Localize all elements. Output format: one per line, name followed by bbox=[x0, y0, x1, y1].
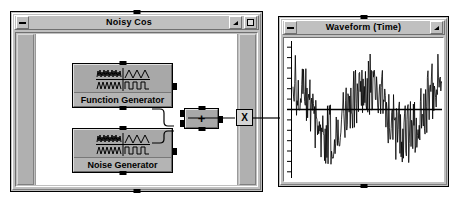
window-resize-handle-bottom[interactable] bbox=[360, 184, 367, 188]
waveform-window[interactable]: Waveform (Time) bbox=[278, 16, 449, 187]
block-handle-top[interactable] bbox=[119, 61, 126, 65]
adder-input-port-b[interactable] bbox=[180, 120, 185, 127]
output-terminal-x[interactable]: X bbox=[236, 109, 253, 126]
waveform-grid-icon bbox=[95, 67, 151, 92]
window-resize-handle-top[interactable] bbox=[360, 15, 367, 19]
diagram-window[interactable]: Noisy Cos bbox=[10, 11, 263, 192]
diagram-window-title: Noisy Cos bbox=[30, 16, 228, 29]
block-handle-top[interactable] bbox=[119, 126, 126, 130]
block-function-generator[interactable]: Function Generator bbox=[72, 63, 173, 108]
minimize-icon[interactable] bbox=[16, 16, 29, 29]
waveform-plot bbox=[285, 39, 442, 180]
left-gutter-panel[interactable] bbox=[17, 34, 34, 185]
block-label-noise-generator: Noise Generator bbox=[74, 157, 171, 171]
chevron-collapse-icon[interactable] bbox=[430, 21, 443, 34]
waveform-grid-icon bbox=[95, 132, 151, 157]
terminal-x-label: X bbox=[241, 112, 248, 123]
waveform-titlebar[interactable]: Waveform (Time) bbox=[282, 20, 445, 35]
waveform-window-title: Waveform (Time) bbox=[298, 21, 429, 34]
chevron-collapse-icon[interactable] bbox=[229, 16, 242, 29]
block-noise-generator[interactable]: Noise Generator bbox=[72, 128, 173, 173]
adder-input-port-a[interactable] bbox=[180, 110, 185, 117]
output-port-function-generator[interactable] bbox=[172, 83, 177, 90]
adder-plus-label: + bbox=[185, 109, 218, 128]
minimize-icon[interactable] bbox=[284, 21, 297, 34]
block-label-function-generator: Function Generator bbox=[74, 92, 171, 106]
diagram-titlebar[interactable]: Noisy Cos bbox=[14, 15, 259, 30]
window-resize-handle-top[interactable] bbox=[133, 10, 140, 14]
diagram-body: Function Generator Noise Generator bbox=[15, 32, 258, 187]
output-port-noise-generator[interactable] bbox=[172, 148, 177, 155]
diagram-canvas[interactable]: Function Generator Noise Generator bbox=[35, 34, 238, 185]
window-resize-handle-bottom[interactable] bbox=[133, 189, 140, 193]
plot-area[interactable] bbox=[285, 39, 442, 180]
waveform-body bbox=[283, 37, 444, 182]
maximize-icon[interactable] bbox=[244, 16, 257, 29]
adder-output-port[interactable] bbox=[218, 116, 223, 123]
add-operator-block[interactable]: + bbox=[184, 108, 219, 129]
